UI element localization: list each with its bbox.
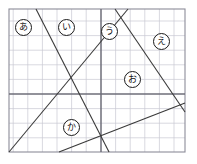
annotation-label-u: う (101, 23, 118, 40)
plot-area-background (9, 9, 185, 152)
annotation-text-i: い (62, 23, 71, 32)
annotation-text-o: お (128, 75, 137, 84)
annotation-text-a: あ (19, 23, 28, 32)
annotation-text-u: う (105, 27, 114, 36)
annotation-label-ka: か (63, 119, 80, 136)
annotation-label-e: え (153, 33, 170, 50)
annotation-label-o: お (124, 71, 141, 88)
annotation-text-ka: か (67, 123, 76, 132)
annotation-text-e: え (157, 37, 166, 46)
figure-canvas: あ い う え お か (0, 0, 197, 164)
annotation-label-i: い (58, 19, 75, 36)
annotation-label-a: あ (15, 19, 32, 36)
